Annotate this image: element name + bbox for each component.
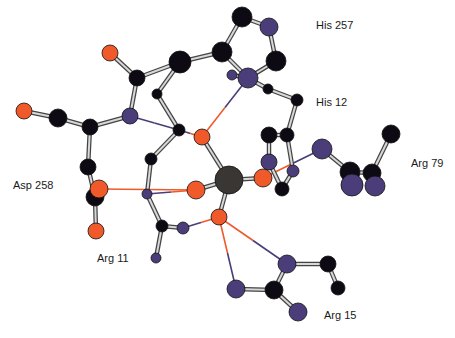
atom-n bbox=[142, 189, 152, 199]
atom-n bbox=[278, 255, 296, 273]
atom-o bbox=[88, 223, 104, 239]
atom-c bbox=[280, 128, 294, 142]
label-arg11: Arg 11 bbox=[97, 252, 129, 264]
atom-c bbox=[331, 281, 345, 295]
atom-n bbox=[227, 70, 237, 80]
atom-o bbox=[16, 103, 32, 119]
atom-n bbox=[289, 303, 307, 321]
atom-o bbox=[194, 129, 210, 145]
atom-n bbox=[177, 222, 189, 234]
label-his12: His 12 bbox=[316, 96, 347, 108]
atom-c bbox=[291, 94, 303, 106]
atom-c bbox=[212, 42, 232, 62]
atom-n bbox=[151, 253, 161, 263]
atom-o bbox=[102, 45, 118, 61]
atom-c bbox=[232, 7, 252, 27]
atom-c bbox=[80, 159, 96, 175]
label-arg79: Arg 79 bbox=[411, 157, 443, 169]
atom-c bbox=[275, 182, 289, 196]
atom-c bbox=[145, 153, 157, 165]
atom-n bbox=[312, 139, 332, 159]
atom-n bbox=[122, 108, 138, 124]
label-arg15: Arg 15 bbox=[324, 309, 356, 321]
atom-n bbox=[261, 154, 277, 170]
atom-c bbox=[152, 89, 162, 99]
atom-n bbox=[227, 280, 245, 298]
atom-c bbox=[82, 119, 98, 135]
atom-o bbox=[211, 209, 227, 225]
atom-m bbox=[215, 166, 243, 194]
label-his257: His 257 bbox=[316, 19, 353, 31]
atom-c bbox=[382, 125, 400, 143]
atom-c bbox=[169, 51, 191, 73]
atom-n bbox=[287, 165, 299, 177]
atom-c bbox=[261, 127, 277, 143]
atom-n bbox=[341, 174, 363, 196]
atom-n bbox=[365, 176, 385, 196]
molecular-structure-diagram bbox=[0, 0, 455, 338]
atom-o bbox=[254, 169, 272, 187]
covalent-bonds bbox=[24, 17, 391, 312]
atom-c bbox=[265, 281, 283, 299]
atom-c bbox=[129, 70, 145, 86]
atom-n bbox=[260, 18, 278, 36]
atom-n bbox=[238, 68, 258, 88]
atom-o bbox=[90, 180, 108, 198]
atom-c bbox=[156, 220, 168, 232]
atom-c bbox=[49, 109, 67, 127]
atom-c bbox=[266, 51, 286, 71]
atom-o bbox=[187, 181, 205, 199]
atom-c bbox=[320, 256, 336, 272]
atom-c bbox=[263, 84, 273, 94]
label-asp258: Asp 258 bbox=[13, 179, 53, 191]
atom-c bbox=[173, 124, 185, 136]
